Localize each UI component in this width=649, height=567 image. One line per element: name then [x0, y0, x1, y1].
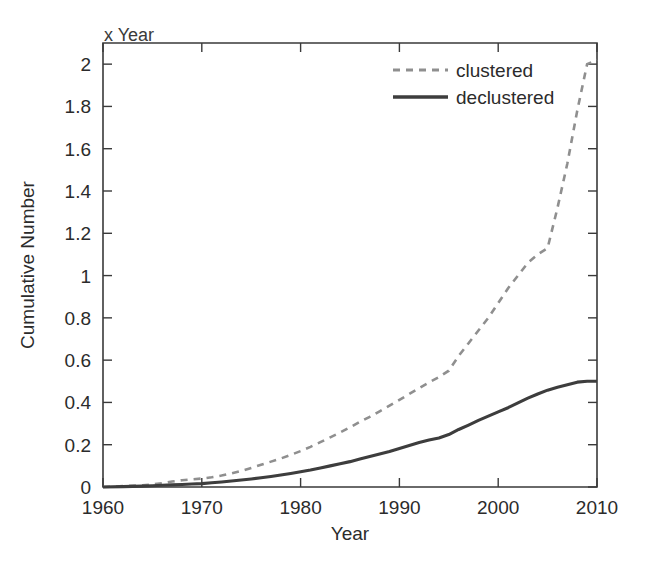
x-tick-label: 1970 — [181, 497, 223, 518]
corner-note-x-year: x Year — [104, 25, 154, 45]
x-tick-label: 2010 — [576, 497, 618, 518]
y-tick-label: 1.6 — [65, 139, 91, 160]
y-tick-label: 1.4 — [65, 181, 92, 202]
cumulative-number-line-chart: 00.20.40.60.811.21.41.61.82 196019701980… — [0, 0, 649, 567]
x-tick-label: 2000 — [477, 497, 519, 518]
y-tick-label: 0.6 — [65, 350, 91, 371]
chart-background — [0, 0, 649, 567]
y-tick-label: 1 — [80, 266, 91, 287]
y-tick-label: 0.4 — [65, 392, 92, 413]
y-tick-label: 0.2 — [65, 435, 91, 456]
figure-container: 00.20.40.60.811.21.41.61.82 196019701980… — [0, 0, 649, 567]
y-tick-label: 0.8 — [65, 308, 91, 329]
y-axis-title: Cumulative Number — [17, 180, 38, 349]
legend-label-clustered: clustered — [456, 60, 533, 81]
y-tick-label: 0 — [80, 477, 91, 498]
y-tick-label: 1.8 — [65, 96, 91, 117]
y-tick-label: 1.2 — [65, 223, 91, 244]
legend-label-declustered: declustered — [456, 87, 554, 108]
x-tick-label: 1990 — [378, 497, 420, 518]
x-axis-title: Year — [331, 523, 370, 544]
x-tick-label: 1980 — [279, 497, 321, 518]
y-tick-label: 2 — [80, 54, 91, 75]
x-tick-label: 1960 — [82, 497, 124, 518]
